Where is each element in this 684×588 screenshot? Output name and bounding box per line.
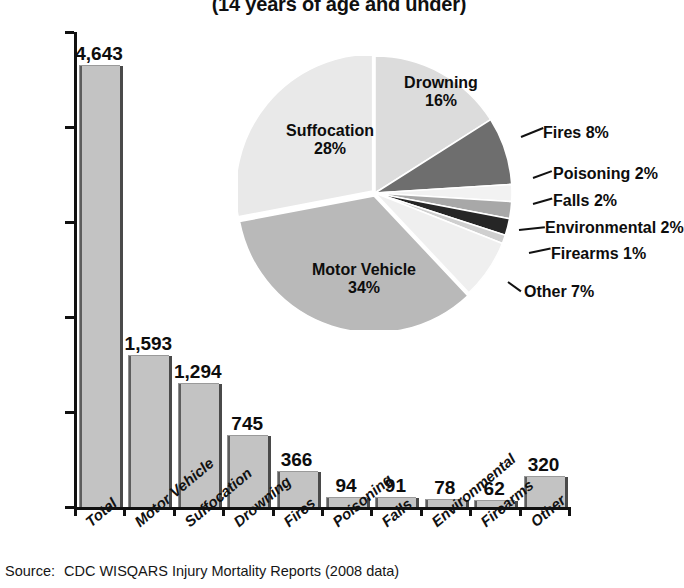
pie-label-other: Other 7% (524, 283, 594, 301)
x-tick-mark (321, 507, 324, 516)
x-tick-mark (469, 507, 472, 516)
x-tick-mark (74, 507, 77, 516)
bar (128, 355, 169, 507)
x-tick-mark (272, 507, 275, 516)
bar-value-label: 745 (215, 413, 279, 435)
bar-value-label: 1,593 (116, 333, 180, 355)
bar-value-label: 4,643 (67, 43, 131, 65)
pie-label-suffocation-name: Suffocation (286, 122, 374, 139)
bar-value-label: 366 (265, 449, 329, 471)
y-tick-mark (65, 221, 74, 224)
pie-label-suffocation-pct: 28% (314, 140, 346, 157)
source-note: Source:CDC WISQARS Injury Mortality Repo… (5, 563, 399, 579)
pie-label-motor-vehicle-pct: 34% (348, 279, 380, 296)
x-tick-mark (173, 507, 176, 516)
x-tick-mark (420, 507, 423, 516)
bar-value-label: 320 (512, 454, 576, 476)
pie-label-drowning-pct: 16% (425, 92, 457, 109)
y-tick-mark (65, 411, 74, 414)
pie-label-drowning-name: Drowning (404, 74, 478, 91)
pie-label-firearms: Firearms 1% (551, 245, 646, 263)
y-tick-mark (65, 316, 74, 319)
pie-label-drowning: Drowning 16% (386, 74, 496, 110)
pie-label-motor-vehicle: Motor Vehicle 34% (302, 261, 426, 297)
x-tick-mark (222, 507, 225, 516)
y-tick-mark (65, 31, 74, 34)
source-label: Source: (5, 563, 55, 579)
pie-label-suffocation: Suffocation 28% (268, 122, 392, 158)
bar-value-label: 1,294 (166, 361, 230, 383)
bar (79, 65, 120, 507)
pie-label-fires: Fires 8% (543, 124, 609, 142)
y-tick-mark (65, 126, 74, 129)
y-axis-line (74, 32, 77, 510)
pie-label-environmental: Environmental 2% (545, 219, 684, 237)
x-tick-mark (123, 507, 126, 516)
source-text: CDC WISQARS Injury Mortality Reports (20… (64, 563, 399, 579)
chart-title: (14 years of age and under) (0, 0, 678, 16)
y-tick-mark (65, 506, 74, 509)
x-tick-mark (568, 507, 571, 516)
pie-label-poisoning: Poisoning 2% (553, 165, 658, 183)
pie-label-motor-vehicle-name: Motor Vehicle (312, 261, 416, 278)
x-tick-mark (370, 507, 373, 516)
x-tick-mark (519, 507, 522, 516)
pie-label-falls: Falls 2% (553, 192, 617, 210)
